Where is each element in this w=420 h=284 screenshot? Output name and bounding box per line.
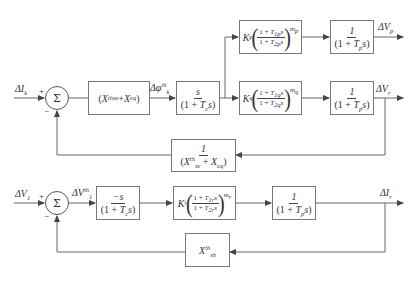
block-feedback-xsh: Xthsh	[185, 233, 230, 267]
block-washout-top: s(1 + Tcs)	[176, 81, 220, 115]
signal-label-dIr: ΔIr	[380, 187, 392, 198]
block-xse-plus-xeq: (Xthse + Xeq)	[88, 81, 150, 115]
sigma-icon: Σ	[53, 92, 61, 105]
signal-label-dV1th: ΔVth1	[72, 187, 92, 198]
signal-label-dV1: ΔV1	[15, 188, 30, 199]
block-lag-q: 1(1 + Tps)	[330, 81, 374, 115]
minus-sign-top: −	[44, 106, 49, 116]
block-lead-lag-r: Kr( 1 + T1rs1 + T2rs )mr	[173, 186, 236, 220]
block-lead-lag-p: Kp( 1 + T1ps1 + T2ps )mp	[239, 20, 302, 54]
plus-sign-top: +	[39, 86, 44, 96]
block-lag-r: 1(1 + Tps)	[272, 186, 316, 220]
signal-label-dVp: ΔVp	[378, 21, 393, 32]
minus-sign-bottom: −	[44, 211, 49, 221]
line-split-to-Kp	[225, 37, 238, 98]
feedback-line-to-sum-bottom	[57, 216, 185, 252]
block-washout-bottom: −s(1 + Tcs)	[96, 186, 140, 220]
signal-label-dphi: Δφthk	[150, 82, 169, 93]
summing-junction-top: Σ	[45, 86, 69, 110]
summing-junction-bottom: Σ	[45, 191, 69, 215]
block-feedback-inverse-xse-xeq: 1(Xthse + Xeq)	[171, 139, 236, 172]
plus-sign-bottom: +	[39, 191, 44, 201]
block-lag-p: 1(1 + Tps)	[330, 20, 374, 54]
sigma-icon: Σ	[53, 197, 61, 210]
signal-label-dIk: ΔIk	[15, 83, 27, 94]
feedback-line-to-sum-top	[57, 111, 171, 155]
block-lead-lag-q: Kq( 1 + T1qs1 + T2qs )mq	[239, 81, 302, 115]
signal-label-dVr: ΔVr	[376, 83, 391, 94]
